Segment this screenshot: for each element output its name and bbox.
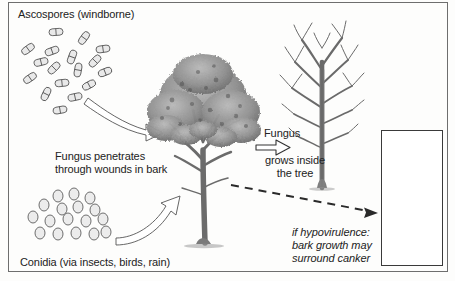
conidia-arrow (116, 196, 180, 245)
canker-inset-box (381, 130, 443, 266)
infection-arrow (256, 140, 290, 155)
ascospore-cluster (20, 28, 112, 114)
label-conidia: Conidia (via insects, birds, rain) (20, 256, 170, 269)
dead-tree-ground-shadow (309, 187, 335, 191)
label-fungus-penetrates: Fungus penetrates through wounds in bark (55, 150, 167, 176)
diagram-figure: Ascospores (windborne) Fungus penetrates… (0, 0, 455, 281)
hypovirulence-arrow (231, 185, 378, 218)
label-fungus-grows-top: Fungus (264, 127, 300, 140)
conidia-cluster (28, 188, 111, 240)
label-hypovirulence: if hypovirulence: bark growth may surrou… (292, 226, 372, 265)
label-ascospores: Ascospores (windborne) (18, 8, 134, 21)
label-fungus-grows-bottom: grows inside the tree (258, 154, 332, 180)
